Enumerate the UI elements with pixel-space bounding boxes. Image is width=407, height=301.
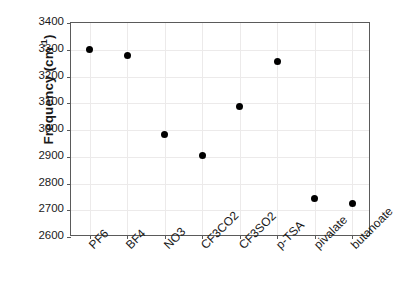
x-tick-label-butanoate: butanoate: [348, 204, 396, 252]
gridline-vertical: [165, 23, 166, 235]
gridline-vertical: [277, 23, 278, 235]
y-tick-mark: [67, 237, 71, 238]
gridline-vertical: [240, 23, 241, 235]
gridline-horizontal: [71, 103, 369, 104]
y-tick-mark: [67, 210, 71, 211]
gridline-vertical: [90, 23, 91, 235]
x-tick-label-cf3co2: CF3CO2: [198, 209, 241, 252]
y-tick-label: 2700: [24, 203, 64, 215]
data-point-cf3co2: [199, 152, 206, 159]
gridline-horizontal: [71, 77, 369, 78]
y-tick-label: 3100: [24, 96, 64, 108]
data-point-cf3so2: [236, 103, 243, 110]
gridline-horizontal: [71, 210, 369, 211]
gridline-horizontal: [71, 130, 369, 131]
data-point-pivalate: [311, 195, 318, 202]
data-point-pf6: [86, 46, 93, 53]
y-tick-label: 3300: [24, 43, 64, 55]
x-tick-label-cf3so2: CF3SO2: [236, 209, 279, 252]
data-point-bf4: [124, 52, 131, 59]
data-point-p-tsa: [274, 58, 281, 65]
y-tick-mark: [67, 50, 71, 51]
chart-figure: Frequency (cm-1) PF6BF4NO3CF3CO2CF3SO2p-…: [0, 0, 407, 301]
plot-area: PF6BF4NO3CF3CO2CF3SO2p-TSApivalatebutano…: [70, 22, 370, 236]
gridline-horizontal: [71, 50, 369, 51]
y-tick-label: 3400: [24, 16, 64, 28]
gridline-horizontal: [71, 157, 369, 158]
y-tick-mark: [67, 130, 71, 131]
data-point-butanoate: [349, 200, 356, 207]
y-axis-title-suffix: ): [41, 34, 56, 39]
data-point-no3: [161, 131, 168, 138]
y-tick-mark: [67, 103, 71, 104]
gridline-vertical: [202, 23, 203, 235]
y-tick-mark: [67, 77, 71, 78]
y-tick-label: 2800: [24, 177, 64, 189]
y-tick-label: 3000: [24, 123, 64, 135]
y-tick-mark: [67, 157, 71, 158]
y-tick-mark: [67, 23, 71, 24]
gridline-horizontal: [71, 184, 369, 185]
y-tick-label: 2900: [24, 150, 64, 162]
y-tick-mark: [67, 184, 71, 185]
y-tick-label: 3200: [24, 70, 64, 82]
x-tick-label-pivalate: pivalate: [311, 213, 350, 252]
x-tick-label-p-tsa: p-TSA: [273, 218, 307, 252]
y-tick-label: 2600: [24, 230, 64, 242]
gridline-vertical: [315, 23, 316, 235]
